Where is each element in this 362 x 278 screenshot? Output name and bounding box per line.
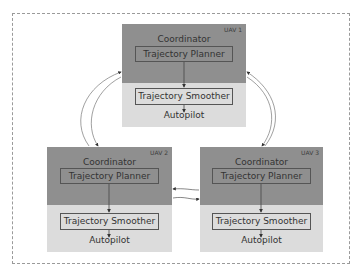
link-uav1-uav2 (81, 72, 121, 146)
link-uav2-uav3 (173, 189, 199, 199)
internal-arrows (109, 62, 261, 237)
connection-arrows (0, 0, 362, 278)
link-uav1-uav3 (247, 72, 275, 146)
